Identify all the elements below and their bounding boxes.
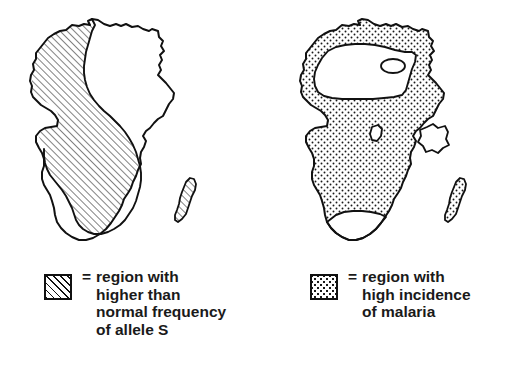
legend-line-2: higher than bbox=[96, 286, 226, 304]
legend-line-1: region with bbox=[362, 268, 471, 286]
legend-swatch-dots bbox=[310, 274, 338, 300]
stippled-region-malaria bbox=[300, 19, 449, 240]
legend-malaria: = region with high incidence of malaria bbox=[260, 268, 520, 321]
highland-star-cutout bbox=[418, 124, 449, 153]
africa-map-allele-s bbox=[0, 0, 260, 262]
legend-swatch-hatch bbox=[44, 274, 72, 300]
legend-text-malaria: = region with high incidence of malaria bbox=[348, 268, 471, 321]
southern-tip-cutout bbox=[327, 211, 386, 240]
figure-two-africa-maps: = region with higher than normal frequen… bbox=[0, 0, 520, 379]
legend-equals-sign-right: = bbox=[348, 268, 357, 321]
legend-line-4: of allele S bbox=[96, 321, 226, 339]
panel-allele-s: = region with higher than normal frequen… bbox=[0, 0, 260, 379]
legend-text-allele-s: = region with higher than normal frequen… bbox=[82, 268, 226, 338]
legend-line-1: region with bbox=[96, 268, 226, 286]
africa-map-malaria bbox=[260, 0, 520, 262]
madagascar-left bbox=[175, 178, 196, 222]
north-oval-cutout bbox=[381, 59, 405, 73]
legend-line-3: normal frequency bbox=[96, 303, 226, 321]
madagascar-right bbox=[445, 178, 466, 222]
legend-line-3: of malaria bbox=[362, 303, 471, 321]
legend-line-2: high incidence bbox=[362, 286, 471, 304]
legend-allele-s: = region with higher than normal frequen… bbox=[0, 268, 304, 338]
panel-malaria: = region with high incidence of malaria bbox=[260, 0, 520, 379]
legend-equals-sign-left: = bbox=[82, 268, 91, 338]
